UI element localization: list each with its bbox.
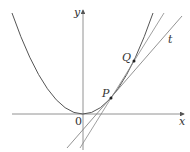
tangent-line xyxy=(67,16,182,148)
x-axis-label: x xyxy=(179,115,186,128)
y-axis-label: y xyxy=(73,6,81,19)
point-p-label: P xyxy=(101,87,110,100)
origin-label: 0 xyxy=(75,115,82,128)
tangent-diagram: y x 0 P Q t xyxy=(0,0,190,152)
point-p xyxy=(110,97,113,100)
point-q xyxy=(133,60,136,63)
parabola-curve xyxy=(12,13,153,114)
tangent-label: t xyxy=(168,33,173,46)
diagram-canvas: y x 0 P Q t xyxy=(0,0,190,152)
secant-line xyxy=(80,13,164,148)
point-q-label: Q xyxy=(122,51,131,64)
